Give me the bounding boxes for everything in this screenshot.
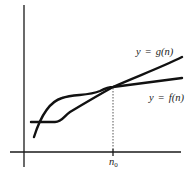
curve-f xyxy=(34,78,182,137)
label-g: y = g(n) xyxy=(135,46,174,58)
n0-label: n0 xyxy=(109,156,118,169)
function-comparison-diagram: y = g(n) y = f(n) n0 xyxy=(0,0,194,178)
label-f: y = f(n) xyxy=(148,92,185,104)
